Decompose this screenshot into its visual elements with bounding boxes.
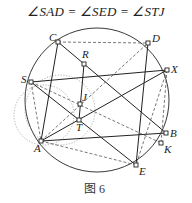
point-label-R: R <box>81 48 89 60</box>
point-D <box>146 41 150 45</box>
point-label-D: D <box>151 32 160 44</box>
point-R <box>82 62 86 66</box>
point-E <box>134 163 138 167</box>
point-B <box>164 131 168 135</box>
point-label-X: X <box>170 63 179 75</box>
point-label-C: C <box>49 31 57 43</box>
geometry-figure: ∠SAD = ∠SED = ∠STJ CDRSXJTABKE 图 6 <box>0 0 192 203</box>
point-label-J: J <box>82 91 88 103</box>
point-label-E: E <box>138 165 146 177</box>
point-K <box>159 141 163 145</box>
point-S <box>29 80 33 84</box>
aux-circle <box>14 85 74 145</box>
segment-CD <box>58 42 148 43</box>
point-label-T: T <box>76 121 83 133</box>
diagram-canvas: CDRSXJTABKE <box>0 0 192 203</box>
point-C <box>56 40 60 44</box>
point-label-A: A <box>33 142 41 154</box>
point-X <box>165 68 169 72</box>
point-label-K: K <box>163 143 172 155</box>
figure-caption: 图 6 <box>84 179 105 197</box>
point-label-S: S <box>21 73 27 85</box>
segment-CB <box>58 42 166 133</box>
segment-AD <box>41 43 148 141</box>
point-label-B: B <box>170 127 177 139</box>
